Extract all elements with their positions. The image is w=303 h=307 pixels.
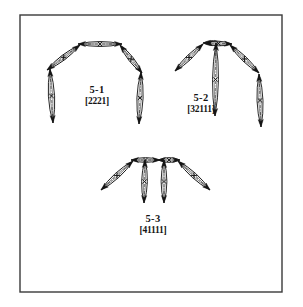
subfigure-label-5-2: 5-2 — [194, 92, 209, 103]
figure-root: 5-1 [2221] 5-2 [32111] 5-3 [41111] — [0, 0, 303, 307]
subfigure-code-5-2: [32111] — [187, 104, 215, 114]
page-background — [0, 0, 303, 307]
figure-canvas: 5-1 [2221] 5-2 [32111] 5-3 [41111] — [0, 0, 303, 307]
link-top — [78, 41, 122, 46]
subfigure-code-5-1: [2221] — [85, 96, 109, 106]
subfigure-label-5-3: 5-3 — [146, 213, 161, 224]
link-vert-inner-right — [161, 160, 167, 203]
subfigure-code-5-3: [41111] — [139, 225, 166, 235]
subfigure-label-5-1: 5-1 — [90, 84, 105, 95]
